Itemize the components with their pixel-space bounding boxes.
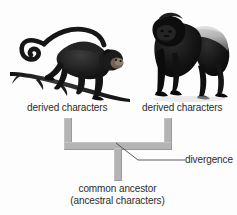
monkey-head xyxy=(99,49,124,70)
spider-monkey-illustration xyxy=(8,10,132,102)
phylogeny-diagram-image: derived characters derived characters di… xyxy=(0,0,237,215)
gorilla-head xyxy=(152,13,185,47)
label-divergence: divergence xyxy=(185,154,233,165)
label-ancestral-characters: (ancestral characters) xyxy=(0,195,236,206)
gorilla-illustration xyxy=(141,4,235,102)
label-derived-characters-left: derived characters xyxy=(27,102,107,113)
label-derived-characters-right: derived characters xyxy=(142,102,222,113)
tree-branch-icon xyxy=(10,72,130,102)
label-common-ancestor: common ancestor xyxy=(0,183,236,194)
divergence-leader-line xyxy=(116,143,186,165)
